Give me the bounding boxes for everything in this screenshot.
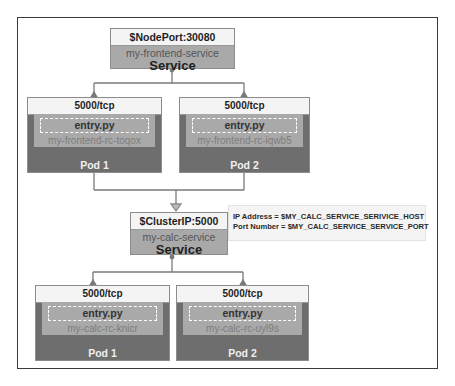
calc-pod-2: 5000/tcp entry.py my-calc-rc-uyl9s Pod 2 xyxy=(176,285,309,361)
pod-label: Pod 1 xyxy=(36,347,169,359)
pod-port: 5000/tcp xyxy=(180,98,309,115)
pod-container: entry.py my-calc-rc-knicr xyxy=(42,302,163,335)
pod-port: 5000/tcp xyxy=(28,98,161,115)
pod-entry-file: entry.py xyxy=(192,118,297,133)
pod-port: 5000/tcp xyxy=(36,286,169,303)
pod-label: Pod 2 xyxy=(177,347,308,359)
calc-pod-1: 5000/tcp entry.py my-calc-rc-knicr Pod 1 xyxy=(35,285,170,361)
frontend-service-box: $NodePort:30080 my-frontend-service Serv… xyxy=(110,28,235,69)
pod-rc-name: my-calc-rc-knicr xyxy=(42,323,163,334)
pod-entry-file: entry.py xyxy=(189,306,296,321)
pod-entry-file: entry.py xyxy=(40,118,149,133)
pod-rc-name: my-frontend-rc-iqwb5 xyxy=(186,135,303,146)
port-number-line: Port Number = $MY_CALC_SERVICE_SERVICE_P… xyxy=(233,222,425,232)
frontend-pod-2: 5000/tcp entry.py my-frontend-rc-iqwb5 P… xyxy=(179,97,310,173)
pod-container: entry.py my-frontend-rc-toqox xyxy=(34,114,155,147)
clusterip-header: $ClusterIP:5000 xyxy=(131,213,227,230)
pod-label: Pod 1 xyxy=(28,159,161,171)
ip-address-line: IP Address = $MY_CALC_SERVICE_SERIVICE_H… xyxy=(233,212,425,222)
pod-container: entry.py my-frontend-rc-iqwb5 xyxy=(186,114,303,147)
env-info-note: IP Address = $MY_CALC_SERVICE_SERIVICE_H… xyxy=(228,205,426,241)
service-kind: Service xyxy=(111,59,234,72)
pod-label: Pod 2 xyxy=(180,159,309,171)
frontend-pod-1: 5000/tcp entry.py my-frontend-rc-toqox P… xyxy=(27,97,162,173)
pod-rc-name: my-frontend-rc-toqox xyxy=(34,135,155,146)
nodeport-header: $NodePort:30080 xyxy=(111,29,234,46)
pod-entry-file: entry.py xyxy=(48,306,157,321)
pod-container: entry.py my-calc-rc-uyl9s xyxy=(183,302,302,335)
pod-port: 5000/tcp xyxy=(177,286,308,303)
pod-rc-name: my-calc-rc-uyl9s xyxy=(183,323,302,334)
service-kind: Service xyxy=(131,243,227,256)
calc-service-box: $ClusterIP:5000 my-calc-service Service xyxy=(130,212,228,255)
